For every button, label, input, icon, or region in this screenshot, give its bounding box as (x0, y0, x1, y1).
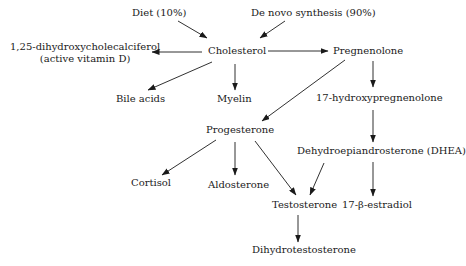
node-progesterone: Progesterone (206, 124, 274, 136)
node-cortisol: Cortisol (131, 177, 171, 189)
node-vitamin-d-line2: (active vitamin D) (10, 53, 160, 65)
node-diet: Diet (10%) (132, 7, 186, 19)
node-testosterone: Testosterone (272, 199, 337, 211)
edge-pregnenolone-progesterone (262, 60, 345, 121)
edge-dhea-testosterone (310, 163, 324, 195)
edge-diet-cholesterol (178, 21, 207, 38)
node-17-hydroxypregnenolone: 17-hydroxypregnenolone (316, 92, 443, 104)
node-dihydrotestosterone: Dihydrotestosterone (252, 244, 356, 256)
node-bile-acids: Bile acids (116, 93, 165, 105)
node-vitamin-d-line1: 1,25-dihydroxycholecalciferol (10, 41, 160, 53)
node-cholesterol: Cholesterol (208, 45, 266, 57)
node-estradiol: 17-β-estradiol (342, 199, 412, 211)
node-denovo: De novo synthesis (90%) (251, 7, 376, 19)
edge-progesterone-cortisol (162, 140, 216, 175)
node-myelin: Myelin (217, 93, 252, 105)
node-aldosterone: Aldosterone (208, 179, 269, 191)
node-vitamin-d: 1,25-dihydroxycholecalciferol (active vi… (10, 41, 160, 65)
edge-denovo-cholesterol (260, 21, 285, 38)
node-dhea: Dehydroepiandrosterone (DHEA) (297, 145, 466, 157)
edge-cholesterol-bile (148, 62, 212, 90)
node-pregnenolone: Pregnenolone (333, 45, 403, 57)
